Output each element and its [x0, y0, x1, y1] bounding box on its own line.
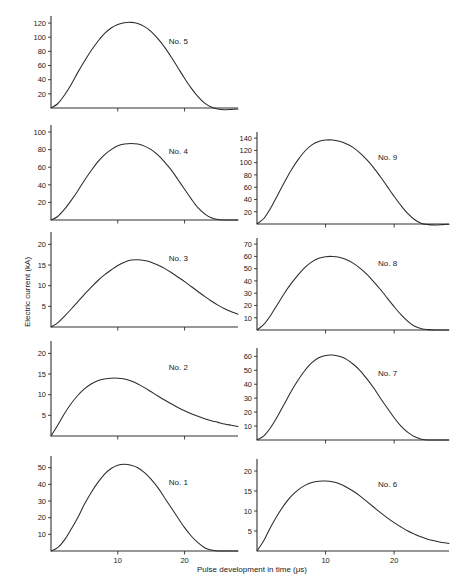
y-tick-label: 40: [38, 181, 46, 190]
panels-layer: 20406080100120No. 520406080100No. 451015…: [33, 16, 449, 565]
y-tick-label: 120: [239, 146, 252, 155]
y-tick-label: 60: [244, 352, 252, 361]
y-tick-label: 50: [244, 366, 252, 375]
y-tick-label: 20: [38, 198, 46, 207]
subplot-no-7: 102030405060No. 7: [244, 348, 449, 444]
panel-label: No. 7: [378, 369, 398, 378]
x-tick-label: 10: [114, 556, 122, 565]
y-tick-label: 40: [244, 195, 252, 204]
y-tick-label: 30: [244, 289, 252, 298]
y-tick-label: 5: [248, 527, 252, 536]
y-tick-label: 5: [42, 411, 46, 420]
y-tick-label: 20: [38, 240, 46, 249]
pulse-current-figure: 20406080100120No. 520406080100No. 451015…: [0, 0, 456, 585]
y-tick-label: 15: [38, 370, 46, 379]
y-tick-label: 80: [38, 145, 46, 154]
y-axis-title: Electric current (kA): [23, 257, 32, 328]
subplot-no-4: 20406080100No. 4: [33, 125, 238, 224]
panel-label: No. 3: [169, 254, 189, 263]
y-tick-label: 20: [38, 90, 46, 99]
panel-label: No. 1: [169, 478, 189, 487]
subplot-no-1: 10203040501020No. 1: [38, 456, 238, 565]
y-tick-label: 40: [38, 75, 46, 84]
y-tick-label: 100: [33, 128, 46, 137]
panel-label: No. 8: [378, 259, 398, 268]
x-tick-label: 20: [390, 556, 398, 565]
pulse-curve: [51, 464, 238, 551]
subplot-no-2: 5101520No. 2: [38, 341, 238, 440]
panel-label: No. 9: [378, 153, 398, 162]
pulse-curve: [257, 256, 449, 330]
y-tick-label: 10: [244, 422, 252, 431]
subplot-no-8: 10203040506070No. 8: [244, 238, 449, 334]
pulse-curve: [257, 140, 449, 225]
pulse-curve: [257, 355, 449, 440]
y-tick-label: 20: [38, 513, 46, 522]
pulse-curve: [51, 22, 238, 109]
y-tick-label: 60: [38, 163, 46, 172]
panel-label: No. 2: [169, 363, 189, 372]
x-tick-label: 20: [180, 556, 188, 565]
subplot-no-3: 5101520No. 3: [38, 232, 238, 331]
y-tick-label: 10: [38, 530, 46, 539]
y-tick-label: 30: [38, 497, 46, 506]
y-tick-label: 60: [38, 61, 46, 70]
y-tick-label: 70: [244, 240, 252, 249]
subplot-no-9: 20406080100120140No. 9: [239, 132, 449, 228]
y-tick-label: 10: [244, 314, 252, 323]
y-tick-label: 5: [42, 302, 46, 311]
y-tick-label: 20: [244, 408, 252, 417]
panel-label: No. 5: [169, 37, 189, 46]
y-tick-label: 20: [244, 301, 252, 310]
y-tick-label: 140: [239, 134, 252, 143]
y-tick-label: 40: [38, 480, 46, 489]
y-tick-label: 10: [244, 507, 252, 516]
y-tick-label: 15: [38, 261, 46, 270]
y-tick-label: 50: [244, 264, 252, 273]
y-tick-label: 20: [38, 349, 46, 358]
y-tick-label: 50: [38, 463, 46, 472]
y-tick-label: 60: [244, 183, 252, 192]
subplot-no-6: 51015201020No. 6: [244, 459, 449, 565]
pulse-curve: [51, 143, 238, 220]
y-tick-label: 30: [244, 394, 252, 403]
pulse-curve: [51, 378, 238, 436]
pulse-curve: [257, 481, 449, 551]
y-tick-label: 80: [244, 171, 252, 180]
y-tick-label: 20: [244, 208, 252, 217]
pulse-curve: [51, 260, 238, 327]
y-tick-label: 15: [244, 487, 252, 496]
y-tick-label: 20: [244, 467, 252, 476]
y-tick-label: 60: [244, 252, 252, 261]
subplot-no-5: 20406080100120No. 5: [33, 16, 238, 112]
y-tick-label: 40: [244, 380, 252, 389]
y-tick-label: 120: [33, 19, 46, 28]
x-tick-label: 10: [321, 556, 329, 565]
panel-label: No. 6: [378, 480, 398, 489]
y-tick-label: 10: [38, 281, 46, 290]
y-tick-label: 10: [38, 390, 46, 399]
x-axis-title: Pulse development in time (μs): [197, 565, 307, 574]
y-tick-label: 80: [38, 47, 46, 56]
panel-label: No. 4: [169, 147, 189, 156]
y-tick-label: 100: [33, 33, 46, 42]
y-tick-label: 40: [244, 277, 252, 286]
y-tick-label: 100: [239, 158, 252, 167]
